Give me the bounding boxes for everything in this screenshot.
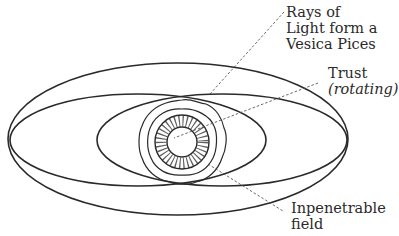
vesica-right-ellipse <box>97 94 347 186</box>
label-trust: Trust (rotating) <box>328 65 399 97</box>
vesica-left-ellipse <box>10 94 266 186</box>
label-trust-line1: Trust <box>328 65 399 81</box>
label-rays-line1: Rays of <box>286 4 377 20</box>
label-field-line2: field <box>291 216 386 232</box>
label-rays-of-light: Rays of Light form a Vesica Pices <box>286 4 377 52</box>
label-inpenetrable-field: Inpenetrable field <box>291 200 386 232</box>
label-field-line1: Inpenetrable <box>291 200 386 216</box>
leader-rays <box>210 12 284 94</box>
leader-field <box>208 164 283 211</box>
label-rays-line3: Vesica Pices <box>286 36 377 52</box>
label-rays-line2: Light form a <box>286 20 377 36</box>
dotted-ring <box>155 115 209 169</box>
label-trust-line2: (rotating) <box>328 81 399 97</box>
